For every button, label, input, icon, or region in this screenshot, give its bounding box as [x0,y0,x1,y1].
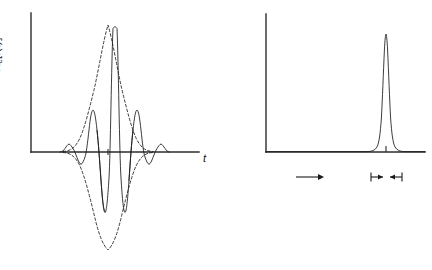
figure-container: Re[f(t)] t | --> [0,0,432,270]
omega-arrow [296,174,324,180]
bandwidth-arrowhead-right [390,175,395,180]
envelope-lower-curve [63,153,153,251]
spectrum-peak-curve [266,34,425,152]
envelope-upper-curve [63,25,153,152]
x-axis-label-time: t [203,153,206,164]
bandwidth-arrowhead-left [378,175,383,180]
y-axis-label-time: Re[f(t)] [0,2,4,72]
omega-arrow-head [318,174,324,180]
panel-frequency-domain: | --> F(w) wc ω 1 τ [216,0,432,270]
panel-time-domain: Re[f(t)] t [0,0,216,270]
time-domain-plot [0,0,216,270]
bandwidth-annotation [371,173,402,182]
carrier-lobe-right [129,131,133,181]
frequency-domain-plot: | --> [216,0,432,270]
carrier-lobe-left [97,131,105,212]
y-axis-label-subscript: e [0,59,4,63]
